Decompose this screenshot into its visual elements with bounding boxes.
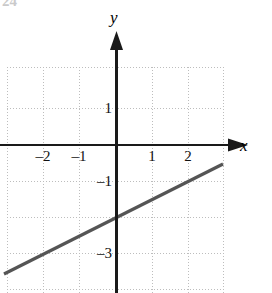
coordinate-plane [0,0,272,293]
plotted-line [4,164,223,274]
y-tick-label-neg3: –3 [82,245,112,262]
x-tick-label-pos2: 2 [184,148,192,165]
x-tick-label-neg1: –1 [72,148,87,165]
y-tick-label-neg1: –1 [82,173,112,190]
y-axis-label: y [110,8,118,28]
y-axis-arrowhead [110,31,123,50]
x-tick-label-pos1: 1 [148,148,156,165]
graph-figure: 24 [0,0,272,293]
x-tick-label-neg2: –2 [36,148,51,165]
y-tick-label-pos1: 1 [92,100,112,117]
x-axis-label: x [240,136,248,156]
